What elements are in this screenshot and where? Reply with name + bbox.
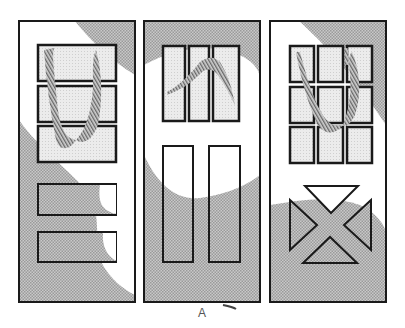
door-1 — [19, 20, 135, 302]
door-3-nine-lite-grid — [290, 46, 372, 163]
door-illustration — [0, 0, 405, 328]
pencil-mark — [223, 305, 236, 309]
figure-caption: A — [196, 306, 208, 320]
door-3 — [270, 20, 386, 302]
door-2-glazed-lites — [163, 46, 239, 121]
door-1-glazed-panels — [38, 45, 116, 162]
door-2 — [144, 21, 260, 302]
